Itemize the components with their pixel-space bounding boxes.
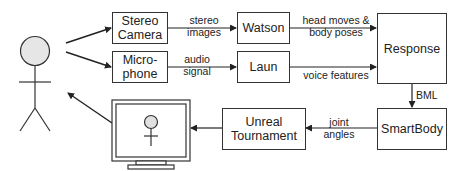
arrow-user-to-camera bbox=[66, 28, 111, 43]
arrow-user-to-mic bbox=[66, 52, 111, 67]
edge-label-joint-angles: joint angles bbox=[322, 117, 356, 140]
edge-label-voice-features: voice features bbox=[296, 70, 376, 82]
edge-label-head-body: head moves & body poses bbox=[296, 15, 376, 38]
response-node: Response bbox=[377, 13, 447, 84]
smartbody-node: SmartBody bbox=[377, 108, 447, 150]
edge-label-bml: BML bbox=[416, 90, 438, 102]
microphone-node: Micro- phone bbox=[112, 51, 168, 83]
user-stick-figure-icon bbox=[19, 37, 51, 132]
arrow-monitor-to-user bbox=[68, 93, 112, 123]
monitor-icon bbox=[112, 100, 190, 169]
edge-label-stereo-images: stereo images bbox=[178, 15, 230, 38]
unreal-tournament-node: Unreal Tournament bbox=[222, 108, 306, 150]
laun-node: Laun bbox=[237, 51, 290, 83]
stereo-camera-node: Stereo Camera bbox=[112, 12, 168, 44]
watson-node: Watson bbox=[237, 12, 290, 44]
edge-label-audio-signal: audio signal bbox=[172, 54, 222, 77]
